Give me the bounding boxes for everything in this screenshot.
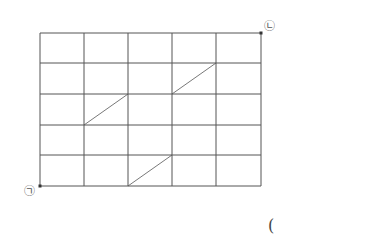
point-label-nieun: ㉡ [264, 21, 275, 32]
diagonal-segment [128, 155, 172, 186]
point-label-giyeok: ㉠ [24, 186, 35, 197]
point-marker [39, 185, 42, 188]
grid-diagram [0, 0, 388, 247]
point-marker [260, 32, 263, 35]
answer-bracket: ( [268, 216, 274, 235]
diagonal-segment [84, 94, 128, 125]
diagonal-segment [172, 63, 216, 94]
